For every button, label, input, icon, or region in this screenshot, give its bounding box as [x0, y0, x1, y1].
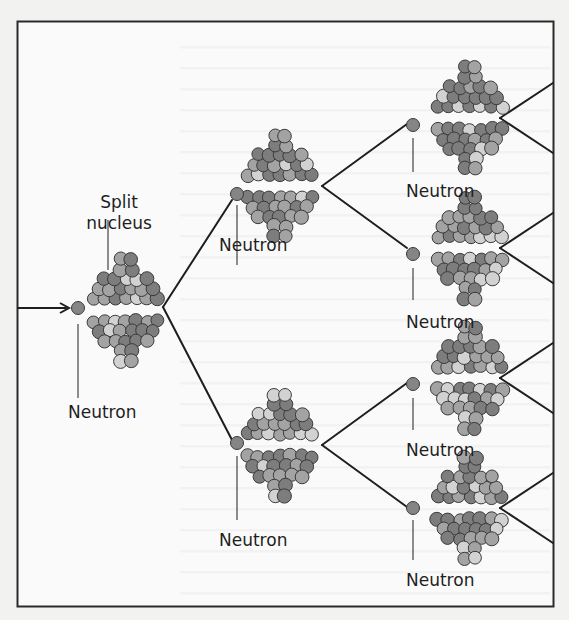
neutron-gen2-2 — [231, 437, 244, 450]
label-neutron-gen3-4: Neutron — [406, 570, 474, 591]
neutron-gen3-1 — [407, 119, 420, 132]
label-neutron-gen3-2: Neutron — [406, 312, 474, 333]
label-neutron-gen3-1: Neutron — [406, 181, 474, 202]
label-neutron-gen1: Neutron — [68, 402, 136, 423]
chain-reaction-diagram: Split nucleus Neutron Neutron Neutron Ne… — [0, 0, 569, 620]
neutron-gen3-4 — [407, 502, 420, 515]
neutron-gen1 — [72, 302, 85, 315]
neutron-gen2-1 — [231, 188, 244, 201]
label-neutron-gen2-top: Neutron — [219, 235, 287, 256]
neutron-gen3-2 — [407, 248, 420, 261]
neutron-gen3-3 — [407, 378, 420, 391]
label-split-nucleus: Split nucleus — [84, 192, 154, 234]
diagram-canvas — [0, 0, 569, 620]
label-neutron-gen2-bottom: Neutron — [219, 530, 287, 551]
label-neutron-gen3-3: Neutron — [406, 440, 474, 461]
